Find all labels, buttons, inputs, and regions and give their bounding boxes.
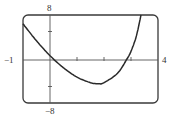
xmax-label: 4 bbox=[162, 56, 167, 65]
xmin-label: −1 bbox=[4, 56, 14, 65]
ymax-label: 8 bbox=[47, 4, 52, 13]
graph bbox=[0, 0, 172, 119]
ymin-label: −8 bbox=[45, 107, 55, 116]
axis-ticks bbox=[48, 32, 131, 87]
function-curve bbox=[23, 15, 141, 84]
